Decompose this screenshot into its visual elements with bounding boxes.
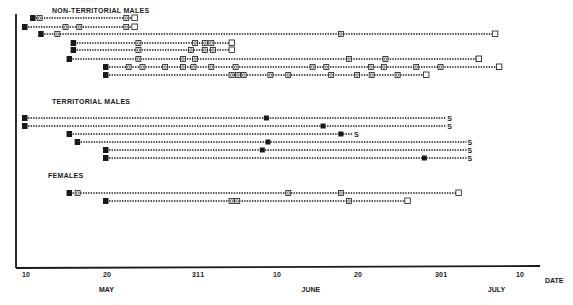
recapture-square-icon — [324, 65, 329, 70]
x-axis-line — [16, 266, 540, 268]
territory-m-icon — [264, 116, 269, 121]
recapture-square-icon — [286, 73, 291, 78]
recapture-square-icon — [236, 73, 241, 78]
end-s-marker: S — [467, 155, 472, 162]
recapture-square-icon — [329, 73, 334, 78]
mark-m-icon — [22, 24, 28, 30]
x-tick-label: 10 — [516, 271, 524, 278]
x-tick-label: 31 — [192, 271, 200, 278]
mark-m-icon — [75, 139, 81, 145]
recapture-square-icon — [55, 32, 60, 37]
territory-m-icon — [260, 148, 265, 153]
timeline-row — [103, 64, 502, 70]
recapture-square-icon — [310, 65, 315, 70]
recapture-square-icon — [395, 73, 400, 78]
x-tick-label: 1 — [443, 271, 447, 278]
end-s-marker: S — [354, 131, 359, 138]
mark-m-icon — [71, 40, 77, 46]
recapture-square-icon — [202, 48, 207, 53]
recapture-square-icon — [202, 41, 207, 46]
end-square-icon — [229, 47, 235, 53]
capture-timeline-chart: NON-TERRITORIAL MALES TERRITORIAL MALES … — [0, 0, 573, 305]
recapture-square-icon — [180, 57, 185, 62]
timeline-row: S — [22, 115, 452, 122]
x-tick-label: 30 — [435, 271, 443, 278]
end-s-marker: S — [447, 123, 452, 130]
end-square-icon — [456, 190, 462, 196]
timeline-row — [103, 198, 410, 204]
recapture-square-icon — [77, 25, 82, 30]
territory-m-icon — [422, 156, 427, 161]
timeline-rows: SSSSSS — [22, 15, 502, 204]
timeline-row — [67, 56, 482, 62]
x-tick-label: 20 — [354, 271, 362, 278]
mark-m-icon — [103, 72, 109, 78]
recapture-square-icon — [338, 32, 343, 37]
territory-m-icon — [266, 140, 271, 145]
recapture-square-icon — [126, 65, 131, 70]
mark-m-icon — [71, 47, 77, 53]
end-square-icon — [476, 56, 482, 62]
recapture-square-icon — [63, 25, 68, 30]
territory-m-icon — [338, 132, 343, 137]
timeline-row — [30, 15, 137, 21]
recapture-square-icon — [210, 48, 215, 53]
axes — [16, 14, 540, 268]
recapture-square-icon — [136, 57, 141, 62]
recapture-square-icon — [229, 199, 234, 204]
mark-m-icon — [38, 31, 44, 37]
recapture-square-icon — [233, 65, 238, 70]
recapture-square-icon — [347, 199, 352, 204]
mark-m-icon — [67, 131, 73, 137]
x-tick-label: 10 — [22, 271, 30, 278]
timeline-row — [22, 24, 137, 30]
timeline-row — [38, 31, 498, 37]
end-square-icon — [492, 31, 498, 37]
end-s-marker: S — [467, 139, 472, 146]
recapture-square-icon — [140, 65, 145, 70]
mark-m-icon — [103, 198, 109, 204]
timeline-row — [71, 40, 235, 46]
end-square-icon — [132, 24, 138, 30]
timeline-row: S — [103, 155, 472, 162]
recapture-square-icon — [381, 65, 386, 70]
end-square-icon — [423, 72, 429, 78]
end-square-icon — [405, 198, 411, 204]
mark-m-icon — [22, 123, 28, 129]
x-tick-labels: 1020311102030110 — [22, 271, 524, 278]
recapture-square-icon — [355, 73, 360, 78]
recapture-square-icon — [136, 41, 141, 46]
recapture-square-icon — [124, 25, 129, 30]
x-month-labels: MAYJUNEJULY — [99, 286, 505, 293]
recapture-square-icon — [383, 57, 388, 62]
recapture-square-icon — [338, 191, 343, 196]
end-square-icon — [229, 40, 235, 46]
recapture-square-icon — [241, 73, 246, 78]
recapture-square-icon — [163, 65, 168, 70]
territory-m-icon — [321, 124, 326, 129]
mark-m-icon — [103, 155, 109, 161]
mark-m-icon — [67, 56, 73, 62]
timeline-row: S — [103, 147, 472, 154]
recapture-square-icon — [124, 16, 129, 21]
group-label-territorial: TERRITORIAL MALES — [52, 98, 130, 105]
x-axis-title: DATE — [545, 277, 564, 284]
x-month-label: JUNE — [302, 286, 321, 293]
timeline-row: S — [75, 139, 473, 146]
recapture-square-icon — [286, 191, 291, 196]
recapture-square-icon — [347, 57, 352, 62]
recapture-square-icon — [189, 48, 194, 53]
group-labels: NON-TERRITORIAL MALES TERRITORIAL MALES … — [48, 7, 149, 179]
recapture-square-icon — [209, 65, 214, 70]
recapture-square-icon — [438, 65, 443, 70]
x-tick-label: 20 — [103, 271, 111, 278]
timeline-row — [71, 47, 235, 53]
recapture-square-icon — [369, 73, 374, 78]
x-tick-label: 1 — [200, 271, 204, 278]
recapture-square-icon — [37, 16, 42, 21]
recapture-square-icon — [180, 65, 185, 70]
mark-m-icon — [67, 190, 73, 196]
group-label-non-territorial: NON-TERRITORIAL MALES — [52, 7, 149, 14]
recapture-square-icon — [193, 41, 198, 46]
end-square-icon — [496, 64, 502, 70]
